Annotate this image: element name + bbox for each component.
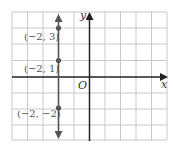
point-label-neg2-1: (−2, 1): [24, 63, 59, 74]
point-neg2-3: [56, 25, 61, 30]
point-label-neg2-neg2: (−2, −2): [17, 108, 61, 119]
point-label-neg2-3: (−2, 3): [24, 31, 59, 42]
x-axis-label: x: [161, 78, 168, 91]
origin-label: O: [78, 79, 87, 92]
coordinate-plane: x y O (−2, 3) (−2, 1) (−2, −2): [0, 0, 175, 153]
y-axis-label: y: [79, 9, 87, 22]
